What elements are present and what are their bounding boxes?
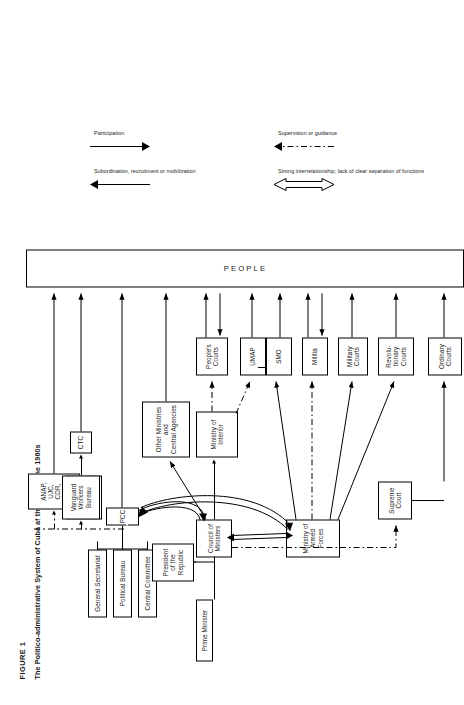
- legend-dash-dot-arrow-icon: [274, 139, 334, 153]
- legend-open-double-arrow-icon: [274, 177, 334, 191]
- legend-text-supervision-guidance: Supervision or guidance: [278, 129, 337, 135]
- legend-text-participation: Participation: [94, 129, 124, 135]
- legend-text-subordination: Subordination, recruitment or mobilizati…: [94, 167, 196, 173]
- legend: Strong interrelationship; lack of clear …: [30, 15, 390, 215]
- node-ordinary-courts: Ordinary Courts: [428, 337, 462, 375]
- legend-solid-arrow-up-icon: [90, 177, 150, 191]
- legend-text-strong-interrelationship: Strong interrelationship; lack of clear …: [278, 167, 424, 173]
- legend-solid-arrow-down-icon: [90, 139, 150, 153]
